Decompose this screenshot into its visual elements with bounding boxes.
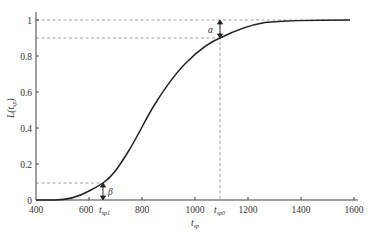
y-tick-0: 0: [27, 196, 32, 206]
x-tick-labels: 400 600 800 1000 1200 1400 1600: [29, 205, 364, 215]
tsp1-label: tsp1: [99, 205, 110, 216]
guide-lines: [36, 20, 350, 200]
y-tick-0-4: 0.4: [20, 124, 32, 134]
alpha-arrow: [218, 20, 223, 38]
cdf-curve: [36, 20, 350, 200]
y-tick-0-8: 0.8: [20, 52, 32, 62]
x-tick-800: 800: [135, 205, 150, 215]
y-axis-label: L(tsp): [6, 98, 17, 119]
beta-label: β: [107, 187, 113, 197]
x-tick-1400: 1400: [292, 205, 311, 215]
y-tick-labels: 1 0.8 0.6 0.4 0.2 0: [20, 16, 32, 206]
x-tick-1600: 1600: [345, 205, 364, 215]
x-tick-1200: 1200: [239, 205, 258, 215]
x-tick-1000: 1000: [186, 205, 205, 215]
beta-arrow: [101, 183, 106, 200]
axes: [36, 12, 358, 200]
x-axis-label: tsp: [191, 218, 199, 229]
y-tick-0-6: 0.6: [20, 88, 32, 98]
chart: α β 1 0.8 0.6 0.4 0.2 0 400 600 800 1000…: [0, 0, 370, 232]
x-tick-600: 600: [79, 205, 94, 215]
tsp0-label: tsp0: [214, 205, 225, 216]
y-tick-1: 1: [27, 16, 32, 26]
y-tick-0-2: 0.2: [20, 160, 32, 170]
alpha-label: α: [208, 25, 214, 35]
x-tick-400: 400: [29, 205, 44, 215]
